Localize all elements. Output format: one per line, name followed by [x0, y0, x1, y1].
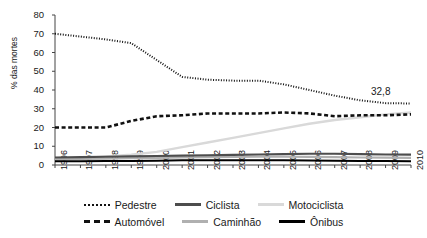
- chart-container: % das mortes 80706050403020100 199619971…: [0, 0, 427, 238]
- legend-swatch-caminhao-icon: [182, 220, 208, 223]
- legend-row-2: AutomóvelCaminhãoÔnibus: [0, 213, 427, 230]
- data-annotation-32-8: 32,8: [371, 86, 390, 97]
- series-line-automvel: [55, 113, 411, 128]
- legend-label-pedestre: Pedestre: [115, 199, 157, 211]
- legend-item-pedestre[interactable]: Pedestre: [84, 199, 157, 211]
- legend-item-onibus[interactable]: Ônibus: [279, 216, 343, 228]
- legend-swatch-onibus-icon: [279, 220, 305, 223]
- legend-label-onibus: Ônibus: [310, 216, 343, 228]
- legend-row-1: PedestreCiclistaMotociclista: [0, 196, 427, 213]
- series-line-nibus: [55, 160, 411, 161]
- legend-label-ciclista: Ciclista: [206, 199, 240, 211]
- legend-item-motociclista[interactable]: Motociclista: [258, 199, 344, 211]
- legend-label-caminhao: Caminhão: [213, 216, 261, 228]
- series-line-pedestre: [55, 34, 411, 104]
- legend-swatch-automovel-icon: [84, 220, 110, 223]
- legend-swatch-motociclista-icon: [258, 203, 284, 206]
- series-line-motociclista: [55, 113, 411, 160]
- legend-label-motociclista: Motociclista: [289, 199, 344, 211]
- legend-item-caminhao[interactable]: Caminhão: [182, 216, 261, 228]
- legend-item-ciclista[interactable]: Ciclista: [175, 199, 240, 211]
- chart-legend: PedestreCiclistaMotociclista AutomóvelCa…: [0, 196, 427, 230]
- legend-swatch-ciclista-icon: [175, 203, 201, 206]
- legend-item-automovel[interactable]: Automóvel: [84, 216, 165, 228]
- legend-swatch-pedestre-icon: [84, 204, 110, 206]
- legend-label-automovel: Automóvel: [115, 216, 165, 228]
